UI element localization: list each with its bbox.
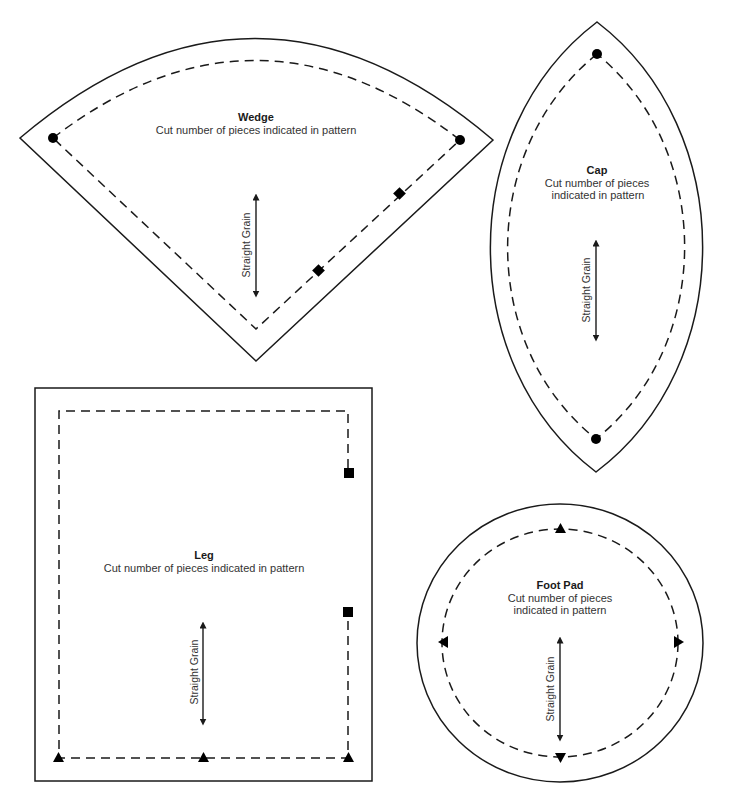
leg-instruction: Cut number of pieces indicated in patter…: [104, 562, 305, 574]
circle-notch-icon: [48, 133, 58, 143]
wedge-title: Wedge: [238, 111, 274, 123]
foot-pad-piece: Foot Pad Cut number of pieces indicated …: [417, 504, 703, 782]
pattern-sheet: Wedge Cut number of pieces indicated in …: [0, 0, 732, 808]
leg-cut-line: [35, 388, 372, 781]
circle-notch-icon: [455, 135, 465, 145]
cap-title: Cap: [587, 164, 608, 176]
wedge-instruction: Cut number of pieces indicated in patter…: [156, 124, 357, 136]
leg-title: Leg: [194, 549, 214, 561]
foot-pad-title: Foot Pad: [536, 579, 583, 591]
cap-instruction-line1: Cut number of pieces: [545, 177, 650, 189]
circle-notch-icon: [592, 49, 602, 59]
leg-piece: Leg Cut number of pieces indicated in pa…: [35, 388, 372, 781]
square-notch-icon: [343, 607, 353, 617]
foot-pad-instruction-line2: indicated in pattern: [514, 604, 607, 616]
foot-pad-grain-label: Straight Grain: [544, 656, 556, 721]
cap-instruction-line2: indicated in pattern: [552, 189, 645, 201]
square-notch-icon: [344, 468, 354, 478]
wedge-grain-label: Straight Grain: [240, 212, 252, 277]
cap-piece: Cap Cut number of pieces indicated in pa…: [490, 22, 702, 472]
leg-grain-label: Straight Grain: [188, 639, 200, 704]
cap-grain-label: Straight Grain: [580, 257, 592, 322]
circle-notch-icon: [591, 434, 601, 444]
wedge-piece: Wedge Cut number of pieces indicated in …: [20, 38, 493, 361]
foot-pad-instruction-line1: Cut number of pieces: [508, 592, 613, 604]
